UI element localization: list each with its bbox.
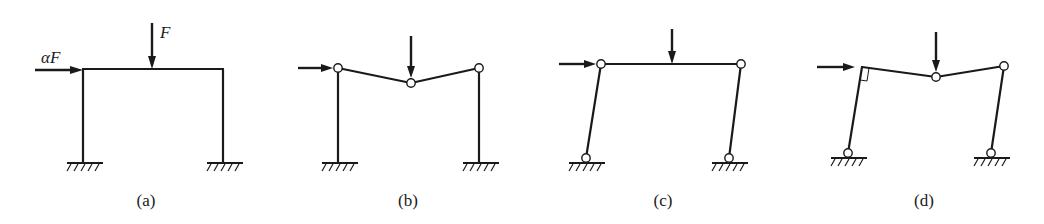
horizontal-load-label: αF — [41, 48, 61, 67]
right-beam-segment — [936, 66, 1004, 77]
right-column — [729, 64, 741, 158]
panel-a: F αF (a) — [35, 23, 243, 210]
hinge-icon — [407, 79, 415, 87]
panel-d: (d) — [817, 32, 1010, 210]
hinge-icon — [725, 154, 733, 162]
hinge-icon — [932, 73, 940, 81]
vertical-load-arrow-icon — [932, 32, 940, 72]
fixed-support-icon — [207, 163, 243, 171]
caption-d: (d) — [914, 191, 934, 210]
left-beam-segment — [338, 68, 411, 83]
right-column — [991, 66, 1004, 153]
left-column — [848, 67, 862, 153]
pinned-support-icon — [974, 158, 1010, 166]
hinge-icon — [582, 154, 590, 162]
pinned-support-icon — [569, 163, 605, 171]
hinge-icon — [597, 60, 605, 68]
pinned-support-icon — [712, 163, 748, 171]
hinge-icon — [844, 149, 852, 157]
vertical-load-label: F — [159, 23, 171, 42]
caption-a: (a) — [137, 191, 156, 210]
hinge-icon — [987, 149, 995, 157]
hinge-icon — [737, 60, 745, 68]
vertical-load-arrow-icon — [148, 23, 156, 69]
caption-b: (b) — [398, 191, 418, 210]
fixed-support-icon — [322, 163, 358, 171]
horizontal-load-arrow-icon — [298, 64, 333, 72]
pinned-support-icon — [831, 158, 867, 166]
fixed-support-icon — [463, 163, 499, 171]
horizontal-load-arrow-icon — [35, 66, 83, 74]
right-beam-segment — [411, 68, 479, 83]
left-beam-segment — [862, 67, 936, 77]
hinge-icon — [334, 64, 342, 72]
left-column — [586, 64, 601, 158]
caption-c: (c) — [654, 191, 673, 210]
panel-b: (b) — [298, 36, 499, 210]
vertical-load-arrow-icon — [407, 36, 415, 78]
hinge-icon — [1000, 62, 1008, 70]
hinge-icon — [475, 64, 483, 72]
vertical-load-arrow-icon — [668, 29, 676, 64]
horizontal-load-arrow-icon — [559, 60, 596, 68]
panel-c: (c) — [559, 29, 748, 210]
frame-diagrams: F αF (a) (b) — [0, 0, 1044, 224]
horizontal-load-arrow-icon — [817, 63, 855, 71]
fixed-support-icon — [67, 163, 103, 171]
